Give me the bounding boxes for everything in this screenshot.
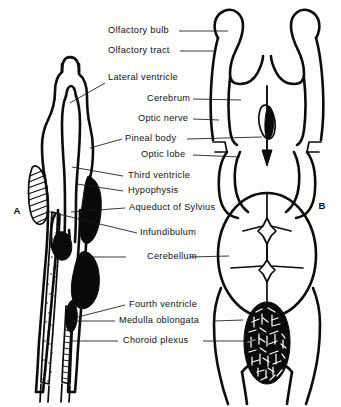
medulla-right-outline — [306, 288, 320, 404]
cerebrum-left-posterior — [229, 78, 238, 145]
optic-lobe-arrow — [262, 150, 272, 166]
cerebrum-left-outer — [211, 38, 218, 140]
hypophysis-shape — [53, 232, 72, 260]
cerebrum-right-inner — [271, 50, 304, 84]
lateral-ventricle-apex — [66, 86, 76, 96]
label-cerebrum: Cerebrum — [147, 93, 190, 103]
leader-optic-lobe — [193, 155, 240, 157]
olfactory-bulb-left — [215, 10, 243, 50]
lateral-ventricle-cavity — [62, 96, 66, 246]
label-optic-nerve: Optic nerve — [138, 113, 188, 123]
anatomy-figure: Olfactory bulb Olfactory tract Lateral v… — [0, 0, 341, 407]
label-infundibulum: Infundibulum — [140, 227, 196, 237]
label-olfactory-bulb: Olfactory bulb — [108, 25, 169, 35]
pineal-body-hatch — [28, 166, 49, 225]
cerebellum-star-lower — [231, 244, 303, 310]
label-texts: Olfactory bulb Olfactory tract Lateral v… — [108, 25, 215, 345]
leader-pineal-body-right — [187, 137, 262, 139]
label-hypophysis: Hypophysis — [128, 185, 179, 195]
choroid-plexus-oval — [244, 302, 290, 384]
medulla-left-outline — [214, 288, 228, 404]
leader-optic-nerve — [193, 119, 219, 120]
label-olfactory-tract: Olfactory tract — [108, 45, 170, 55]
panel-a-sagittal — [28, 57, 101, 402]
brain-diagram-svg: Olfactory bulb Olfactory tract Lateral v… — [0, 0, 341, 407]
pineal-body-fill — [265, 106, 274, 139]
optic-nerve-right — [307, 142, 321, 152]
label-third-ventricle: Third ventricle — [128, 170, 190, 180]
leader-medulla-right — [214, 320, 243, 321]
cerebrum-right-posterior — [297, 78, 306, 145]
medulla-inner-left — [242, 372, 247, 404]
leader-third-ventricle — [72, 167, 123, 176]
panel-letter-a: A — [14, 205, 21, 216]
cerebrum-right-outer — [316, 38, 323, 140]
label-cerebellum: Cerebellum — [147, 251, 197, 261]
leader-pineal-body-left — [90, 139, 122, 148]
label-lateral-ventricle: Lateral ventricle — [108, 72, 178, 82]
label-aqueduct-of-sylvius: Aqueduct of Sylvius — [129, 202, 215, 212]
panel-b-dorsal — [211, 10, 324, 404]
label-optic-lobe: Optic lobe — [141, 149, 185, 159]
label-pineal-body: Pineal body — [125, 133, 176, 143]
label-fourth-ventricle: Fourth ventricle — [129, 299, 197, 309]
cerebellum-mass — [71, 252, 99, 309]
optic-nerve-left — [213, 142, 227, 152]
sagittal-outer-outline — [36, 64, 62, 392]
olfactory-bulb-right — [291, 10, 319, 50]
label-choroid-plexus: Choroid plexus — [123, 335, 189, 345]
medulla-inner-right — [287, 372, 292, 404]
cerebrum-left-inner — [230, 50, 263, 84]
panel-letter-b: B — [319, 200, 326, 211]
label-medulla-oblongata: Medulla oblongata — [119, 315, 200, 325]
leader-cerebrum — [193, 99, 241, 100]
